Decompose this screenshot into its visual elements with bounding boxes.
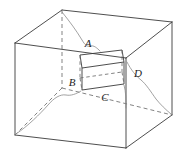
- outer-hidden-bottom-back-left: [15, 88, 62, 135]
- outer-edge-bottom-right-front: [126, 115, 172, 148]
- inner-edge-bottom-front: [82, 84, 124, 90]
- outer-edge-top-back-left: [15, 10, 62, 43]
- figure-container: A B C D: [0, 0, 185, 160]
- label-c: C: [101, 91, 109, 103]
- label-a: A: [84, 37, 92, 49]
- outer-edge-top-right-front: [126, 22, 172, 58]
- inner-hidden-bottom-back: [80, 72, 122, 78]
- outer-edge-top-back-right: [62, 10, 172, 22]
- outer-edge-top-left-front: [15, 43, 126, 58]
- outer-edge-bottom-left-front: [15, 135, 126, 148]
- label-d: D: [133, 67, 142, 79]
- inner-cube-edges: [80, 50, 124, 90]
- outer-cube-solid-edges: [15, 10, 172, 148]
- connector-line-a: [62, 12, 100, 51]
- sketch-connector-lines: [16, 12, 171, 134]
- cube-diagram: A B C D: [0, 0, 185, 160]
- outer-cube-hidden-edges: [15, 10, 172, 135]
- label-b: B: [69, 76, 76, 88]
- connector-line-b: [16, 91, 81, 134]
